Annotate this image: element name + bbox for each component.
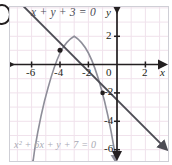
y-tick-label--2: -2 (104, 85, 113, 97)
intersection-point-1 (58, 48, 63, 53)
x-tick-label-0: 0 (106, 66, 112, 78)
x-axis-label: x (160, 66, 165, 78)
grid-lines (10, 7, 168, 161)
figure-container: x + y + 3 = 0 x² + 6x + y + 7 = 0 -6 -4 … (0, 0, 172, 165)
y-tick-label--4: -4 (104, 114, 113, 126)
y-tick-label--6: -6 (104, 142, 113, 154)
parabola-equation-label: x² + 6x + y + 7 = 0 (14, 139, 96, 150)
x-tick-label--4: -4 (54, 66, 63, 78)
line-equation-label: x + y + 3 = 0 (31, 6, 96, 18)
x-tick-label--2: -2 (82, 66, 91, 78)
x-tick-label-2: 2 (142, 66, 148, 78)
y-tick-label-2: 2 (106, 29, 112, 41)
x-tick-label--6: -6 (26, 66, 35, 78)
y-axis-label: y (106, 6, 111, 18)
